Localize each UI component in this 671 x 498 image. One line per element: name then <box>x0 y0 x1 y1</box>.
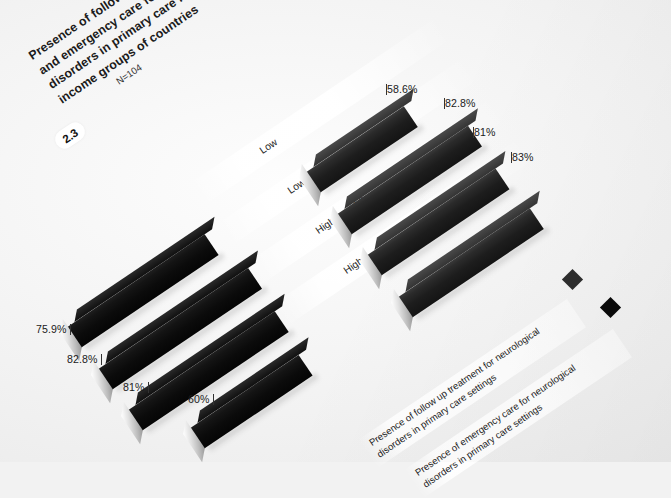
value-label-series2-higher-middle: 81% <box>123 381 149 393</box>
value-label-series1-low: 58.6% <box>383 83 418 95</box>
category-label-low: Low <box>258 136 280 156</box>
value-label-series2-low: 75.9% <box>36 323 71 335</box>
figure-title-block: Presence of follow-up treatment and emer… <box>26 0 346 119</box>
page-title: Presence of follow-up treatment and emer… <box>26 0 339 108</box>
leader-tick <box>70 324 71 335</box>
leader-tick <box>213 394 214 405</box>
legend-swatch-emergency <box>600 297 621 318</box>
legend-swatch-follow-up <box>562 269 583 290</box>
value-label-series2-high: 60% <box>188 393 214 405</box>
value-label-series1-lower-middle: 82.8% <box>441 97 476 109</box>
value-label-series1-high: 83% <box>508 151 534 163</box>
leader-tick <box>101 354 102 365</box>
value-label-series2-lower-middle: 82.8% <box>67 353 102 365</box>
value-label-series1-higher-middle: 81% <box>470 126 496 138</box>
leader-tick <box>148 382 149 393</box>
figure-number-badge: 2.3 <box>51 119 88 153</box>
